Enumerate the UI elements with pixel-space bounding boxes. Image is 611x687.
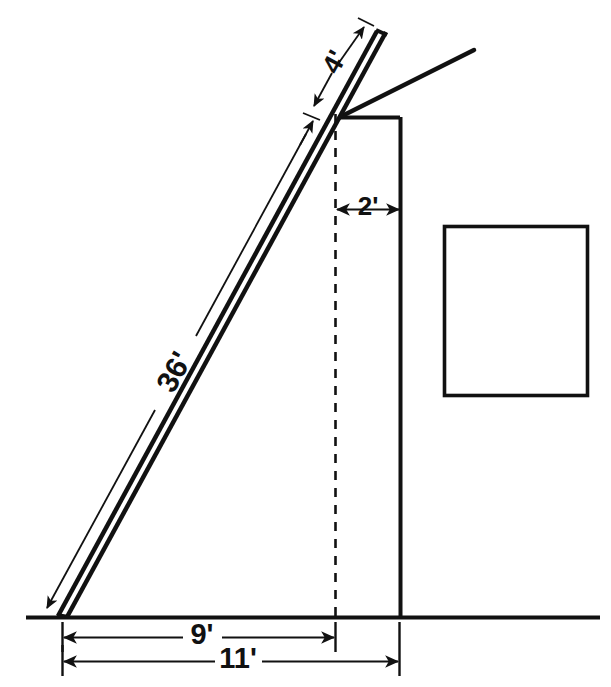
dimension-base-to-wall: 11': [63, 622, 400, 676]
dim-4-tick-bottom: [303, 113, 320, 120]
diagram-canvas: 36' 4' 2' 9': [0, 0, 611, 687]
ladder-foot-cap: [57, 615, 68, 617]
dim-4-line-lower: [314, 73, 332, 106]
ladder-rail-right: [67, 32, 386, 617]
dim-36-arrow-upper: [300, 121, 313, 145]
dimension-ladder-length: 36': [47, 121, 313, 608]
dimension-label-9: 9': [190, 618, 213, 650]
dimension-wall-offset: 2': [337, 191, 399, 221]
dim-4-tick-top: [358, 18, 374, 26]
dimension-label-11: 11': [219, 642, 257, 674]
dim-36-line-lower: [47, 410, 155, 608]
dimension-label-2: 2': [358, 191, 379, 221]
dimension-base-to-plumb: 9': [63, 618, 336, 652]
dim-36-line-upper: [196, 134, 306, 336]
ladder-diagram-figure: 36' 4' 2' 9': [0, 0, 611, 687]
ladder-double-rail: [57, 30, 387, 617]
ladder-rail-left: [58, 31, 377, 616]
blank-square-box: [445, 227, 588, 396]
